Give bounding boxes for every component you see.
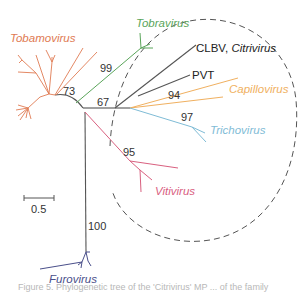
- trichovirus-branches: [130, 108, 206, 142]
- clade-label-tobravirus: Tobravirus: [136, 18, 189, 30]
- clbv-prefix: CLBV,: [196, 42, 228, 54]
- bootstrap-100: 100: [88, 221, 106, 232]
- bootstrap-67: 67: [97, 97, 109, 108]
- clade-label-capillovirus: Capillovirus: [229, 84, 288, 96]
- furovirus-branches: [40, 252, 91, 269]
- citrivirus-label: Citrivirus: [231, 42, 276, 54]
- scale-bar-label: 0.5: [31, 204, 46, 215]
- tobravirus-branches: [76, 33, 153, 103]
- scale-bar: [24, 195, 54, 201]
- clade-label-tobamovirus: Tobamovirus: [10, 33, 75, 45]
- bootstrap-94: 94: [168, 90, 180, 101]
- bootstrap-95: 95: [123, 147, 135, 158]
- clade-label-trichovirus: Trichovirus: [210, 125, 265, 137]
- bootstrap-99: 99: [100, 63, 112, 74]
- clade-label-clbv: CLBV, Citrivirus: [196, 43, 276, 55]
- bootstrap-97: 97: [181, 112, 193, 123]
- bootstrap-73: 73: [63, 86, 75, 97]
- clade-label-pvt: PVT: [192, 70, 214, 82]
- clade-label-vitivirus: Vitivirus: [155, 186, 195, 198]
- tobamovirus-branches: [16, 48, 97, 120]
- figure-caption-partial: Figure 5. Phylogenetic tree of the 'Citr…: [18, 283, 306, 292]
